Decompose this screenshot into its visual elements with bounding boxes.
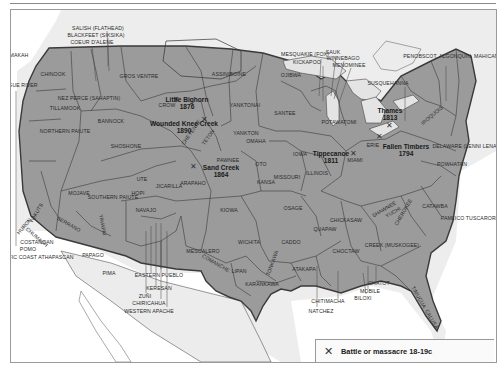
tribe-label: WESTERN APACHE (124, 308, 173, 314)
battle-year: 1794 (383, 150, 429, 157)
tribe-label: POTAWATOMI (321, 119, 356, 125)
tribe-label: CHICKASAW (330, 217, 362, 223)
tribe-label: IOWA (293, 151, 307, 157)
tribe-label: OTO (255, 161, 266, 167)
battle-name: Tippecanoe (313, 150, 350, 157)
battle-name: Thames (378, 107, 403, 114)
tribe-label: YANKTON (233, 130, 258, 136)
tribe-label: ILLINOIS (306, 170, 328, 176)
tribe-label: OSAGE (284, 205, 303, 211)
tribe-label: ATAKAPA (292, 266, 315, 272)
tribe-label: POMO (20, 246, 36, 252)
crossed-swords-icon: ✕ (190, 163, 197, 171)
tribe-label: KERESAN (146, 285, 172, 291)
tribe-label: SHOSHONE (111, 143, 142, 149)
battle-label: Tippecanoe1811 (313, 150, 350, 164)
tribe-label: WICHITA (238, 239, 260, 245)
tribe-label: ZUÑI (139, 293, 152, 299)
tribe-label: KARANKAWA (245, 281, 279, 287)
tribe-label: NATCHEZ (309, 308, 334, 314)
map-frame: SALISH (FLATHEAD)BLACKFEET (SIKSIKA)COEU… (10, 9, 497, 363)
battle-label: Fallen Timbers1794 (383, 143, 429, 157)
battle-name: Sand Creek (203, 164, 239, 171)
tribe-label: KIOWA (220, 207, 238, 213)
crossed-swords-icon: ✕ (376, 133, 383, 141)
tribe-label: LIPAN (231, 268, 246, 274)
tribe-label: CADDO (281, 239, 300, 245)
territory-map (11, 10, 496, 362)
crossed-swords-icon: ✕ (350, 150, 357, 158)
tribe-label: KICKAPOO (293, 59, 321, 65)
tribe-label: ERIE (367, 142, 380, 148)
tribe-label: YANKTONAI (230, 102, 260, 108)
tribe-label: BILOXI (354, 295, 371, 301)
tribe-label: CATAWBA (422, 203, 447, 209)
tribe-label: KANSA (257, 179, 275, 185)
tribe-label: CHITIMACHA (311, 298, 344, 304)
tribe-label: MOJAVE (68, 190, 90, 196)
tribe-label: POWHATAN (437, 161, 467, 167)
tribe-label: EASTERN PUEBLO (135, 272, 183, 278)
tribe-label: CHINOOK (41, 71, 66, 77)
tribe-label: JICARILLA (156, 183, 183, 189)
top-rule (10, 3, 496, 4)
tribe-label: MENOMINEE (333, 62, 366, 68)
tribe-label: PACIFIC COAST ATHAPASCAN (10, 254, 74, 260)
crossed-swords-icon: ✕ (386, 122, 393, 130)
tribe-label: SALISH (FLATHEAD) (72, 25, 124, 31)
battle-year: 1811 (313, 157, 350, 164)
battle-label: Wounded Knee Creek1890 (150, 120, 218, 134)
tribe-label: TILLAMOOK (50, 105, 81, 111)
tribe-label: CREEK (MUSKOGEE) (365, 242, 419, 248)
tribe-label: MESQUAKIE (FOX) (281, 51, 329, 57)
crossed-swords-icon: ✕ (324, 345, 333, 358)
tribe-label: HOPI (131, 190, 144, 196)
battle-year: 1890 (150, 127, 218, 134)
tribe-label: COEUR D'ALENE (70, 39, 113, 45)
tribe-label: OJIBWA (281, 72, 301, 78)
tribe-label: SANTEE (274, 110, 295, 116)
tribe-label: ARAPAHO (180, 180, 206, 186)
tribe-label: MOBILE (360, 288, 380, 294)
battle-year: 1864 (203, 171, 239, 178)
tribe-label: QUAPAW (313, 226, 336, 232)
battle-year: 1813 (378, 114, 403, 121)
legend-label: Battle or massacre 18-19c (341, 347, 432, 356)
tribe-label: PAMLICO TUSCARORA (441, 215, 497, 221)
battle-name: Little Bighorn (166, 96, 209, 103)
tribe-label: WINNEBAGO (326, 55, 359, 61)
battle-label: Thames1813 (378, 107, 403, 121)
tribe-label: NORTHERN PAIUTE (40, 128, 91, 134)
battle-label: Sand Creek1864 (203, 164, 239, 178)
tribe-label: CHATOT (368, 280, 389, 286)
tribe-label: MISSOURI (274, 174, 300, 180)
battle-name: Wounded Knee Creek (150, 120, 218, 127)
tribe-label: GROS VENTRE (120, 73, 159, 79)
battle-name: Fallen Timbers (383, 143, 429, 150)
battle-year: 1876 (166, 103, 209, 110)
battle-label: Little Bighorn1876 (166, 96, 209, 110)
tribe-label: ASSINIBOINE (212, 71, 246, 77)
map-legend: ✕ Battle or massacre 18-19c (315, 339, 494, 362)
tribe-label: OMAHA (246, 138, 266, 144)
tribe-label: ROGUE RIVER (10, 82, 38, 88)
tribe-label: PENOBSCOT, ALGONQUIN, MAHICAN (403, 53, 497, 59)
tribe-label: NAVAJO (136, 207, 157, 213)
tribe-label: CHOCTAW (333, 248, 360, 254)
tribe-label: PAPAGO (82, 252, 104, 258)
tribe-label: SUSQUEHANNA (367, 80, 408, 86)
tribe-label: MAKAH (10, 52, 28, 58)
tribe-label: NEZ PERCE (SAHAPTIN) (58, 95, 121, 101)
tribe-label: BANNOCK (98, 118, 124, 124)
tribe-label: BLACKFEET (SIKSIKA) (67, 32, 124, 38)
tribe-label: PIMA (102, 270, 115, 276)
tribe-label: CHIRICAHUA (132, 300, 165, 306)
tribe-label: DELAWARE (LENNI LENAPE) (432, 143, 497, 149)
tribe-label: UTE (137, 176, 148, 182)
tribe-label: PAWNEE (217, 157, 240, 163)
